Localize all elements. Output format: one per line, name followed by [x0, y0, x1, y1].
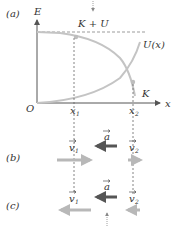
origin-label: O: [26, 103, 34, 114]
kinetic-curve: [37, 32, 135, 96]
panel-b-vectors: v 1 a v 2: [57, 130, 140, 161]
potential-curve: [37, 42, 140, 103]
x1-point: [74, 35, 78, 39]
x2-tick-sub: 2: [134, 110, 139, 117]
b-v2-sub: 2: [134, 147, 139, 154]
total-energy-label: K + U: [77, 18, 109, 29]
energy-diagram: (a) E x O K + U K U(x) x 1 x 2 (b) v 1 a…: [0, 0, 184, 226]
potential-label: U(x): [143, 39, 165, 50]
x-axis-label: x: [165, 98, 171, 109]
x1-tick-sub: 1: [76, 110, 80, 117]
panel-b-label: (b): [6, 152, 20, 163]
kinetic-label: K: [141, 88, 150, 99]
panel-c-vectors: v 1 a v 2: [61, 180, 140, 211]
b-a-label: a: [104, 131, 110, 142]
c-a-label: a: [104, 181, 110, 192]
y-axis-label: E: [33, 6, 42, 17]
b-v1-sub: 1: [75, 147, 79, 154]
c-v1-sub: 1: [75, 198, 79, 205]
panel-a-label: (a): [6, 8, 20, 19]
panel-c-label: (c): [6, 200, 20, 211]
x2-point: [131, 80, 135, 84]
c-v2-sub: 2: [134, 198, 139, 205]
